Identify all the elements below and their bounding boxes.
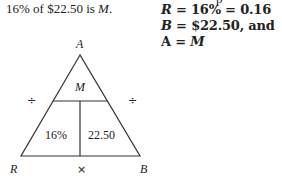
divide-icon-left: ÷ <box>27 94 36 107</box>
bottom-left-cell-value: 16% <box>45 128 67 143</box>
bottom-right-cell-value: 22.50 <box>88 128 115 143</box>
divide-icon-right: ÷ <box>128 94 137 107</box>
multiply-icon: × <box>77 163 86 176</box>
right-vertex-label: B <box>140 162 147 177</box>
top-cell-value: M <box>75 80 85 95</box>
left-vertex-label: R <box>10 162 17 177</box>
percent-triangle-diagram <box>0 0 282 189</box>
apex-label: A <box>76 37 83 52</box>
